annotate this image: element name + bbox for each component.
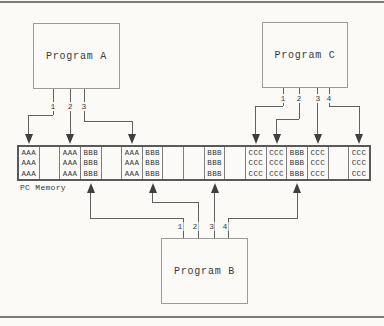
connector-c-2-arrowhead (273, 134, 281, 144)
memory-cell-12: CCCCCCCCC (246, 147, 267, 179)
memory-cell-7: BBBBBBBBB (143, 147, 164, 179)
connector-c-3-arrowhead (314, 134, 322, 144)
memory-cell-10: BBBBBBBBB (205, 147, 226, 179)
connector-a-3-drop (132, 121, 133, 135)
connector-c-2-stub (299, 88, 300, 119)
memory-cell-2 (40, 147, 61, 179)
program-c-label: Program C (274, 50, 335, 61)
connector-b-1-arrowhead (87, 183, 95, 193)
connector-a-2-line (70, 89, 71, 135)
connector-b-3-arrowhead (211, 183, 219, 193)
program-c-box: Program C (262, 22, 348, 88)
connector-b-1-rise (90, 192, 91, 218)
memory-cell-4: BBBBBBBBB (81, 147, 102, 179)
tap-label-a-3: 3 (81, 102, 88, 111)
connector-c-4-horizontal (329, 106, 360, 107)
program-a-label: Program A (46, 51, 107, 62)
tap-label-b-3: 3 (208, 222, 215, 231)
memory-cell-5 (102, 147, 123, 179)
connector-b-2-horizontal (152, 202, 198, 203)
top-rule (0, 1, 384, 3)
connector-a-3-horizontal (84, 121, 133, 122)
connector-b-2-arrowhead (149, 183, 157, 193)
memory-cell-15: CCCCCCCCC (308, 147, 329, 179)
connector-b-2-rise (152, 192, 153, 202)
tap-label-c-4: 4 (326, 94, 333, 103)
bottom-rule (0, 316, 384, 318)
tap-label-a-1: 1 (50, 102, 57, 111)
memory-label: PC Memory (20, 183, 66, 192)
connector-a-3-arrowhead (128, 134, 136, 144)
memory-cell-3: AAAAAAAAA (60, 147, 81, 179)
tap-label-b-1: 1 (177, 222, 184, 231)
memory-cell-16 (329, 147, 350, 179)
tap-label-c-3: 3 (314, 94, 321, 103)
memory-cell-14: BBBBBBBBB (287, 147, 308, 179)
connector-c-2-horizontal (276, 119, 299, 120)
memory-cell-11 (225, 147, 246, 179)
connector-c-4-arrowhead (355, 134, 363, 144)
tap-label-b-2: 2 (192, 222, 199, 231)
memory-diagram: Program A Program C Program B AAAAAAAAAA… (0, 0, 384, 326)
connector-b-4-arrowhead (293, 183, 301, 193)
memory-cell-6: AAAAAAAAA (122, 147, 143, 179)
connector-b-2-stub (198, 202, 199, 238)
tap-label-b-4: 4 (222, 222, 229, 231)
connector-c-1-horizontal (255, 106, 283, 107)
program-a-box: Program A (33, 23, 120, 89)
connector-c-1-drop (255, 106, 256, 135)
connector-b-4-horizontal (228, 218, 298, 219)
tap-label-c-1: 1 (280, 94, 287, 103)
memory-cell-1: AAAAAAAAA (19, 147, 40, 179)
memory-cell-17: CCCCCCCCC (349, 147, 369, 179)
connector-a-1-horizontal (28, 115, 53, 116)
connector-a-2-arrowhead (66, 134, 74, 144)
program-b-label: Program B (174, 266, 235, 277)
tap-label-c-2: 2 (296, 94, 303, 103)
memory-row: AAAAAAAAAAAAAAAAAABBBBBBBBBAAAAAAAAABBBB… (17, 145, 371, 181)
connector-c-4-drop (359, 106, 360, 135)
tap-label-a-2: 2 (67, 102, 74, 111)
connector-a-1-drop (28, 115, 29, 135)
memory-cell-8 (163, 147, 184, 179)
memory-cell-13: CCCCCCCCC (267, 147, 288, 179)
connector-b-3-line (214, 192, 215, 238)
connector-b-4-rise (297, 192, 298, 218)
memory-cell-9 (184, 147, 205, 179)
connector-b-1-horizontal (90, 218, 183, 219)
connector-a-1-arrowhead (25, 134, 33, 144)
connector-c-1-arrowhead (252, 134, 260, 144)
connector-c-2-drop (276, 119, 277, 135)
program-b-box: Program B (161, 238, 248, 304)
